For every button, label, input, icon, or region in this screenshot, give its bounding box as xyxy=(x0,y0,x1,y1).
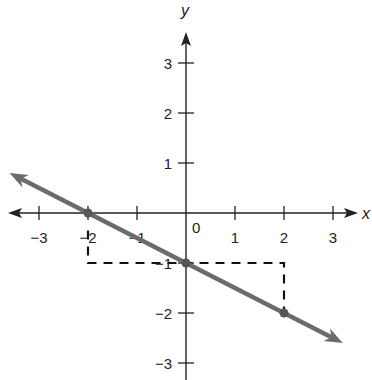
x-tick-label: −3 xyxy=(30,229,47,246)
origin-label: 0 xyxy=(192,219,200,236)
y-tick-label: 3 xyxy=(164,55,172,72)
y-tick-label: 2 xyxy=(164,105,172,122)
y-axis-label: y xyxy=(180,2,190,19)
x-tick-label: 3 xyxy=(329,229,337,246)
y-tick-label: −1 xyxy=(155,255,172,272)
y-tick-label: −2 xyxy=(155,305,172,322)
x-tick-label: 2 xyxy=(280,229,288,246)
x-tick-label: 1 xyxy=(231,229,239,246)
axes xyxy=(8,32,358,380)
data-point xyxy=(182,259,191,268)
y-tick-label: 1 xyxy=(164,155,172,172)
y-tick-label: −3 xyxy=(155,355,172,372)
plot-svg: −3−2−1123−3−2−1123 x y 0 xyxy=(0,0,372,380)
x-axis-label: x xyxy=(361,205,371,222)
data-line xyxy=(10,173,343,343)
data-point xyxy=(84,209,93,218)
x-tick-label: −2 xyxy=(79,229,96,246)
data-point xyxy=(280,309,289,318)
